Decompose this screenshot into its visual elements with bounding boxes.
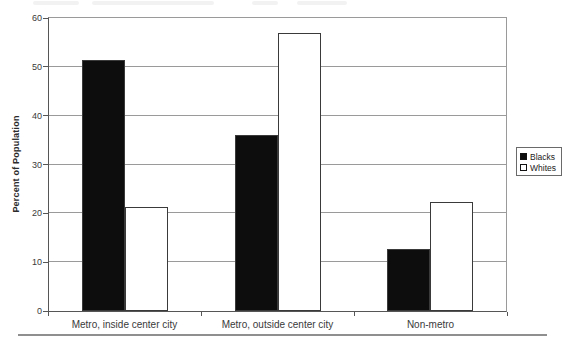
bar-whites-metro-outside-center-city xyxy=(278,33,321,311)
y-tick-mark-60 xyxy=(43,18,48,19)
legend-swatch-whites xyxy=(520,164,527,171)
scan-artifact xyxy=(33,1,79,5)
x-tick-mark-0 xyxy=(48,312,49,316)
plot-area xyxy=(48,17,507,312)
legend-label-blacks: Blacks xyxy=(530,152,555,162)
y-tick-mark-20 xyxy=(43,213,48,214)
legend: Blacks Whites xyxy=(516,147,562,176)
legend-item-blacks: Blacks xyxy=(520,151,559,162)
legend-swatch-blacks xyxy=(520,153,527,160)
scan-artifact xyxy=(252,1,278,5)
scan-artifact xyxy=(297,1,347,5)
bar-blacks-non-metro xyxy=(387,249,430,311)
y-tick-label-0: 0 xyxy=(2,306,42,316)
legend-item-whites: Whites xyxy=(520,162,559,173)
x-category-label-metro-outside-center-city: Metro, outside center city xyxy=(222,319,334,330)
y-tick-mark-40 xyxy=(43,115,48,116)
y-tick-label-40: 40 xyxy=(2,111,42,121)
y-tick-mark-30 xyxy=(43,164,48,165)
page-divider-line xyxy=(18,334,547,336)
y-tick-label-60: 60 xyxy=(2,13,42,23)
y-tick-label-30: 30 xyxy=(2,160,42,170)
scan-artifact xyxy=(92,1,214,5)
legend-label-whites: Whites xyxy=(530,163,556,173)
x-tick-mark-1 xyxy=(201,312,202,316)
bar-blacks-metro-outside-center-city xyxy=(235,135,278,311)
y-tick-label-10: 10 xyxy=(2,257,42,267)
bar-whites-non-metro xyxy=(430,202,473,311)
bar-blacks-metro-inside-center-city xyxy=(82,60,125,311)
bar-whites-metro-inside-center-city xyxy=(125,207,168,311)
x-tick-mark-3 xyxy=(507,312,508,316)
y-tick-mark-50 xyxy=(43,66,48,67)
x-tick-mark-2 xyxy=(354,312,355,316)
y-tick-label-20: 20 xyxy=(2,208,42,218)
x-category-label-non-metro: Non-metro xyxy=(407,319,454,330)
y-tick-mark-10 xyxy=(43,262,48,263)
x-category-label-metro-inside-center-city: Metro, inside center city xyxy=(72,319,178,330)
bar-chart: Percent of Population Blacks Whites 0102… xyxy=(0,0,566,348)
y-tick-label-50: 50 xyxy=(2,62,42,72)
